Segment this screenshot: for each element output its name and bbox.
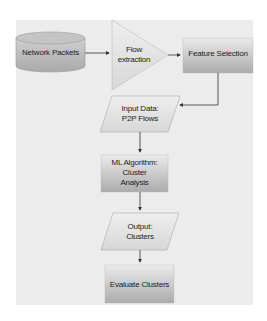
label-input-data: Input Data: P2P Flows: [100, 103, 180, 125]
label-evaluate: Evaluate Clusters: [105, 278, 174, 292]
output-line2: Clusters: [126, 232, 154, 242]
input-line1: Input Data:: [122, 104, 159, 114]
evaluate-text: Evaluate Clusters: [110, 280, 169, 290]
ml-line2: Analysis: [120, 178, 148, 188]
label-output: Output: Clusters: [101, 221, 179, 243]
feature-selection-text: Feature Selection: [188, 49, 247, 59]
flow-line2: extraction: [118, 55, 151, 65]
input-line2: P2P Flows: [122, 114, 158, 124]
label-ml-algorithm: ML Algorithm: Cluster Analysis: [99, 162, 170, 184]
label-network-packets: Network Packets: [16, 46, 85, 60]
edge-feature-to-input: [180, 73, 218, 105]
ml-line1: ML Algorithm: Cluster: [99, 158, 170, 178]
output-line1: Output:: [128, 222, 153, 232]
label-flow-extraction: Flow extraction: [112, 44, 156, 66]
label-feature-selection: Feature Selection: [183, 47, 253, 61]
network-packets-text: Network Packets: [22, 48, 79, 58]
flow-line1: Flow: [126, 45, 142, 55]
